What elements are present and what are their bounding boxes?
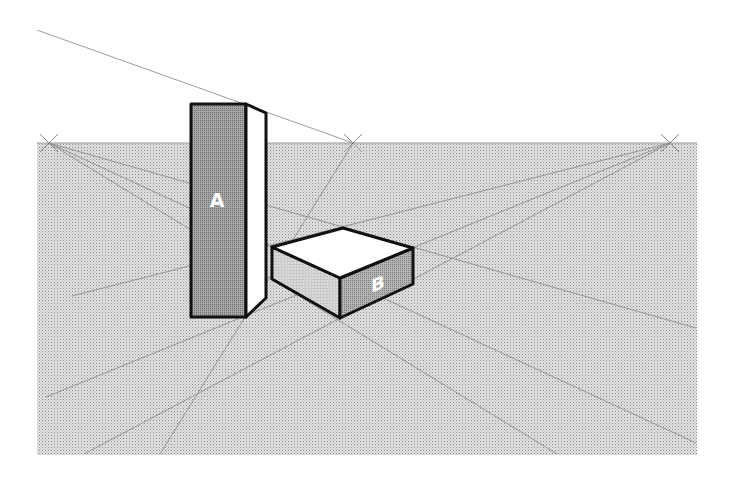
box-a-side-face	[246, 104, 266, 317]
drawing-svg: A B	[0, 0, 732, 478]
perspective-drawing: A B	[0, 0, 732, 478]
box-a: A	[191, 104, 266, 317]
box-a-label: A	[210, 189, 225, 211]
